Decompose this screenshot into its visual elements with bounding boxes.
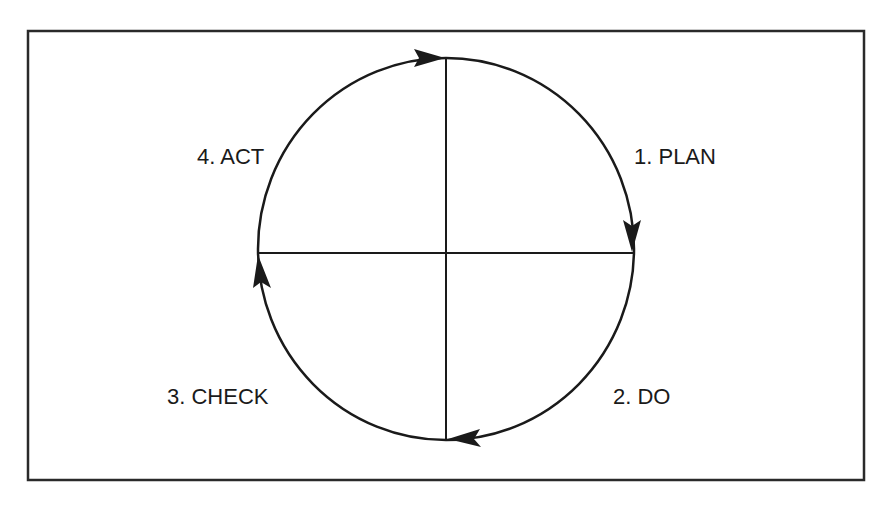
pdca-diagram: 1. PLAN 2. DO 3. CHECK 4. ACT [0,0,891,510]
step-plan-label: 1. PLAN [634,144,716,169]
step-do-label: 2. DO [613,384,670,409]
arrow-right-icon [414,49,445,67]
step-check-label: 3. CHECK [167,384,269,409]
step-act-label: 4. ACT [197,144,264,169]
